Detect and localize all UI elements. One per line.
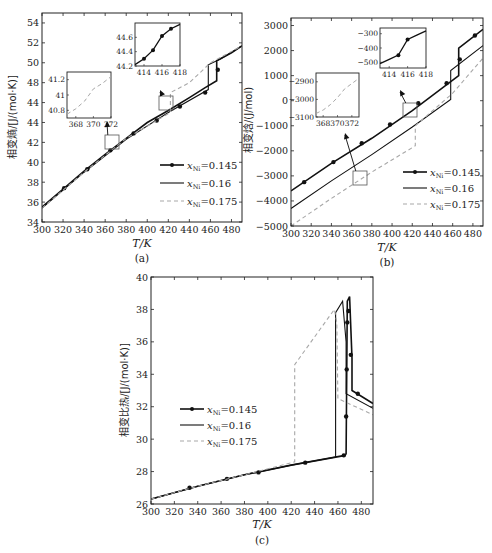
x-tick-label: 400 — [259, 506, 277, 517]
inset-chart: 368370372−3100−3000−2900 — [289, 73, 367, 185]
y-tick-label: 32 — [136, 401, 148, 412]
y-tick-label: 42 — [27, 137, 39, 148]
x-tick-label: 380 — [117, 224, 135, 235]
x-tick-label: 420 — [282, 506, 300, 517]
y-tick-label: 40 — [27, 157, 39, 168]
svg-text:44.2: 44.2 — [116, 62, 133, 71]
x-tick-label: 400 — [138, 224, 156, 235]
plot-series-c — [151, 297, 373, 500]
y-tick-label: 38 — [27, 177, 39, 188]
y-tick-label: 28 — [136, 466, 148, 477]
y-tick-label: 44 — [27, 117, 39, 128]
legend-item: xNi=0.175 — [180, 436, 257, 449]
y-tick-label: 48 — [27, 77, 39, 88]
svg-text:40.8: 40.8 — [48, 106, 65, 115]
y-tick-label: −2000 — [256, 145, 288, 156]
svg-text:418: 418 — [173, 68, 188, 77]
data-point-marker — [349, 353, 353, 357]
x-tick-label: 400 — [383, 228, 401, 239]
x-tick-label: 320 — [165, 506, 183, 517]
x-tick-label: 360 — [212, 506, 230, 517]
x-tick-label: 440 — [423, 228, 441, 239]
x-axis-title-text-a: T/K — [132, 237, 152, 250]
y-tick-label: 34 — [27, 217, 39, 228]
y-tick-label: −3000 — [256, 170, 288, 181]
y-tick-label: 1000 — [264, 70, 288, 81]
x-tick-label: 460 — [201, 224, 219, 235]
y-tick-label: 0 — [282, 95, 288, 106]
series-line — [151, 297, 373, 500]
svg-text:44.4: 44.4 — [116, 47, 133, 56]
data-point-marker — [458, 57, 462, 61]
svg-text:−500: −500 — [357, 58, 378, 67]
x-tick-label: 440 — [306, 506, 324, 517]
y-tick-label: 50 — [27, 57, 39, 68]
legend-item: xNi=0.145 — [403, 167, 480, 180]
axis-ticks-c: 3003203403603804004204404604802628303234… — [136, 272, 373, 518]
legend-label: xNi=0.175 — [207, 436, 257, 449]
legend-item: xNi=0.16 — [403, 183, 474, 196]
data-point-marker — [302, 180, 306, 184]
x-tick-label: 380 — [235, 506, 253, 517]
svg-text:416: 416 — [400, 70, 415, 79]
svg-text:416: 416 — [155, 68, 170, 77]
x-tick-label: 480 — [222, 224, 240, 235]
svg-text:414: 414 — [382, 70, 397, 79]
legend-label: xNi=0.145 — [187, 160, 237, 173]
legend-label: xNi=0.175 — [430, 199, 480, 212]
y-tick-label: 34 — [136, 369, 148, 380]
y-tick-label: −4000 — [256, 195, 288, 206]
data-point-marker — [388, 122, 392, 126]
caption-b: (b) — [380, 256, 395, 268]
data-point-marker — [216, 68, 220, 72]
svg-text:41.2: 41.2 — [48, 75, 65, 84]
caption-c: (c) — [255, 534, 269, 546]
data-point-marker — [346, 309, 350, 313]
x-tick-label: 360 — [343, 228, 361, 239]
svg-text:−2900: −2900 — [289, 77, 315, 86]
svg-text:−400: −400 — [357, 44, 378, 53]
inset-chart: 36837037240.84141.2 — [48, 72, 119, 149]
chart-panel-a: 3003203403603804004204404604803436384042… — [6, 13, 242, 264]
svg-text:414: 414 — [137, 68, 152, 77]
y-tick-label: 36 — [136, 336, 148, 347]
legend-label: xNi=0.16 — [187, 178, 231, 191]
svg-text:−3000: −3000 — [289, 95, 315, 104]
x-tick-label: 320 — [54, 224, 72, 235]
data-point-marker — [331, 160, 335, 164]
y-axis-title-a: 相变熵/[J/(mol·K)] — [6, 75, 18, 159]
svg-text:44.6: 44.6 — [116, 33, 133, 42]
x-tick-label: 320 — [302, 228, 320, 239]
y-tick-label: −1000 — [256, 120, 288, 131]
svg-text:−300: −300 — [357, 29, 378, 38]
legend-item: xNi=0.145 — [180, 404, 257, 417]
data-point-marker — [342, 453, 346, 457]
x-tick-label: 340 — [75, 224, 93, 235]
x-tick-label: 460 — [329, 506, 347, 517]
legend-c: xNi=0.145xNi=0.16xNi=0.175 — [180, 404, 257, 449]
legend-label: xNi=0.16 — [430, 183, 474, 196]
legend-item: xNi=0.175 — [403, 199, 480, 212]
svg-text:41: 41 — [55, 91, 65, 100]
x-tick-label: 480 — [352, 506, 370, 517]
x-axis-title-c: T/K — [252, 518, 272, 531]
svg-text:370: 370 — [86, 120, 101, 129]
data-point-marker — [356, 392, 360, 396]
chart-panel-c: 3003203403603804004204404604802628303234… — [118, 272, 373, 547]
y-tick-label: 54 — [27, 17, 39, 28]
y-tick-label: 40 — [136, 272, 148, 283]
svg-text:370: 370 — [330, 119, 345, 128]
data-point-marker — [345, 320, 349, 324]
legend-label: xNi=0.145 — [207, 404, 257, 417]
y-tick-label: 30 — [136, 434, 148, 445]
legend-label: xNi=0.175 — [187, 196, 237, 209]
x-axis-title-a: T/K — [132, 237, 152, 250]
y-tick-label: 52 — [27, 37, 39, 48]
svg-text:−3100: −3100 — [289, 113, 315, 122]
series-line — [151, 309, 373, 499]
x-tick-label: 340 — [322, 228, 340, 239]
legend-item: xNi=0.16 — [180, 420, 251, 433]
legend-a: xNi=0.145xNi=0.16xNi=0.175 — [160, 160, 237, 209]
inset-chart: 41441641844.244.444.6 — [116, 23, 187, 110]
y-tick-label: 3000 — [264, 20, 288, 31]
